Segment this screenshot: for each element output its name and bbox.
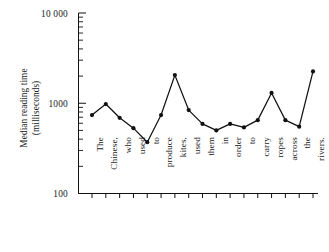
x-tick-label-text: produce — [164, 137, 174, 167]
x-tick-label-4: to — [151, 137, 161, 197]
x-tick-label-text: to — [247, 137, 257, 144]
x-tick-label-5: produce — [164, 137, 174, 197]
x-tick-label-text: to — [151, 137, 161, 144]
x-tick-label-8: them — [206, 137, 216, 197]
x-tick-label-text: The — [95, 137, 105, 152]
x-tick-label-text: in — [220, 137, 230, 144]
x-tick-label-text: used — [192, 137, 202, 154]
x-tick-label-text: them — [206, 137, 216, 156]
x-tick-label-15: the — [302, 137, 312, 197]
x-tick-label-6: kites, — [178, 137, 188, 197]
x-tick-label-text: Chinese, — [109, 137, 119, 170]
x-tick-label-7: used — [192, 137, 202, 197]
x-tick-label-12: carry — [261, 137, 271, 197]
x-axis-tick-labels: TheChinese,whousedtoproducekites,usedthe… — [0, 0, 329, 252]
x-tick-label-3: used — [137, 137, 147, 197]
x-tick-label-text: across — [289, 137, 299, 161]
x-tick-label-text: order — [233, 137, 243, 157]
x-tick-label-14: across — [289, 137, 299, 197]
x-tick-label-text: carry — [261, 137, 271, 156]
x-tick-label-11: to — [247, 137, 257, 197]
x-tick-label-10: order — [233, 137, 243, 197]
x-tick-label-text: ropes — [275, 137, 285, 157]
x-tick-label-0: The — [95, 137, 105, 197]
x-tick-label-text: kites, — [178, 137, 188, 157]
x-tick-label-text: the — [302, 137, 312, 149]
x-tick-label-text: rivers. — [316, 137, 326, 161]
x-tick-label-text: used — [137, 137, 147, 154]
x-tick-label-9: in — [220, 137, 230, 197]
x-tick-label-text: who — [123, 137, 133, 153]
x-tick-label-13: ropes — [275, 137, 285, 197]
x-tick-label-2: who — [123, 137, 133, 197]
reading-time-line-chart: Median reading time (milliseconds) 10 00… — [0, 0, 329, 252]
x-tick-label-1: Chinese, — [109, 137, 119, 197]
x-tick-label-16: rivers. — [316, 137, 326, 197]
